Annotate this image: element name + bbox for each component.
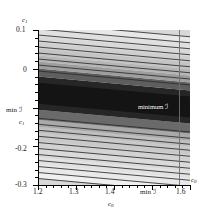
x-tick-minor xyxy=(91,185,92,188)
x-tick-label-4: 1.6 xyxy=(176,188,185,196)
y-tick-major xyxy=(33,185,38,186)
y-tick-major xyxy=(33,69,38,70)
x-axis-variable-subscript-2: 0 xyxy=(111,203,114,208)
y-tick-minor xyxy=(35,139,38,140)
y-tick-minor xyxy=(35,154,38,155)
y-tick-minor xyxy=(35,92,38,93)
x-tick-minor xyxy=(129,185,130,188)
x-tick-minor xyxy=(99,185,100,188)
y-tick-minor xyxy=(35,115,38,116)
x-tick-minor xyxy=(122,185,123,188)
x-tick-minor xyxy=(84,185,85,188)
y-tick-minor xyxy=(35,46,38,47)
y-tick-label-0: 0.1 xyxy=(16,26,25,34)
y-axis-variable-label-side: c1 xyxy=(19,118,25,128)
y-tick-minor xyxy=(35,131,38,132)
x-tick-minor xyxy=(167,185,168,188)
x-tick-label-1: 1.3 xyxy=(69,188,78,196)
x-tick-minor xyxy=(53,185,54,188)
x-tick-minor xyxy=(137,185,138,188)
y-tick-major xyxy=(33,30,38,31)
minimum-annotation: minimum ℐ xyxy=(138,103,168,111)
y-tick-minor xyxy=(35,162,38,163)
x-axis-variable-subscript: 0 xyxy=(194,179,197,184)
x-tick-minor xyxy=(160,185,161,188)
y-tick-label-4: -0.3 xyxy=(15,181,27,189)
y-tick-minor xyxy=(35,123,38,124)
y-tick-minor xyxy=(35,77,38,78)
y-axis-variable-subscript-3: 1 xyxy=(22,121,25,126)
y-tick-minor xyxy=(35,170,38,171)
y-tick-minor xyxy=(35,84,38,85)
x-axis-variable-label-right: c0 xyxy=(191,176,197,186)
y-tick-major xyxy=(33,108,38,109)
figure-root: minimum ℐ c1 c0 c0 c1 0.1 0 min ℐ -0.2 -… xyxy=(0,0,205,214)
x-axis-variable-label-bottom: c0 xyxy=(108,200,114,210)
y-tick-major xyxy=(33,146,38,147)
y-tick-label-minimum: min ℐ xyxy=(6,106,22,114)
x-tick-label-2: 1.4 xyxy=(105,188,114,196)
x-tick-label-minimum: min ℐ xyxy=(140,188,156,196)
y-tick-minor xyxy=(35,177,38,178)
y-tick-minor xyxy=(35,53,38,54)
y-tick-minor xyxy=(35,100,38,101)
minimum-annotation-text: minimum ℐ xyxy=(138,103,168,110)
y-axis-variable-subscript: 1 xyxy=(25,19,28,24)
x-tick-minor xyxy=(46,185,47,188)
y-tick-minor xyxy=(35,38,38,39)
x-tick-label-0: 1.2 xyxy=(33,188,42,196)
x-tick-minor xyxy=(61,185,62,188)
y-axis-line xyxy=(38,30,39,185)
minimum-vertical-guide xyxy=(179,30,180,185)
y-tick-label-3: -0.2 xyxy=(15,145,27,153)
y-tick-minor xyxy=(35,61,38,62)
y-tick-label-1: 0 xyxy=(23,66,27,74)
